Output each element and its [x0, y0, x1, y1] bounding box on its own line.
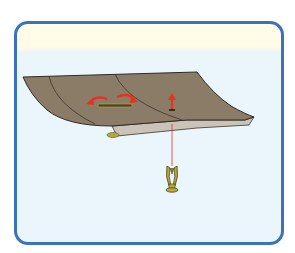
panel-hole	[169, 109, 175, 111]
illustration-frame	[14, 21, 284, 245]
top-caption	[50, 0, 230, 4]
panel-slot	[98, 104, 132, 107]
headliner-panel	[23, 72, 254, 126]
headliner-clip-illustration	[17, 24, 281, 242]
clip-head-under-panel	[107, 133, 119, 138]
push-pin-clip-icon	[166, 166, 178, 192]
